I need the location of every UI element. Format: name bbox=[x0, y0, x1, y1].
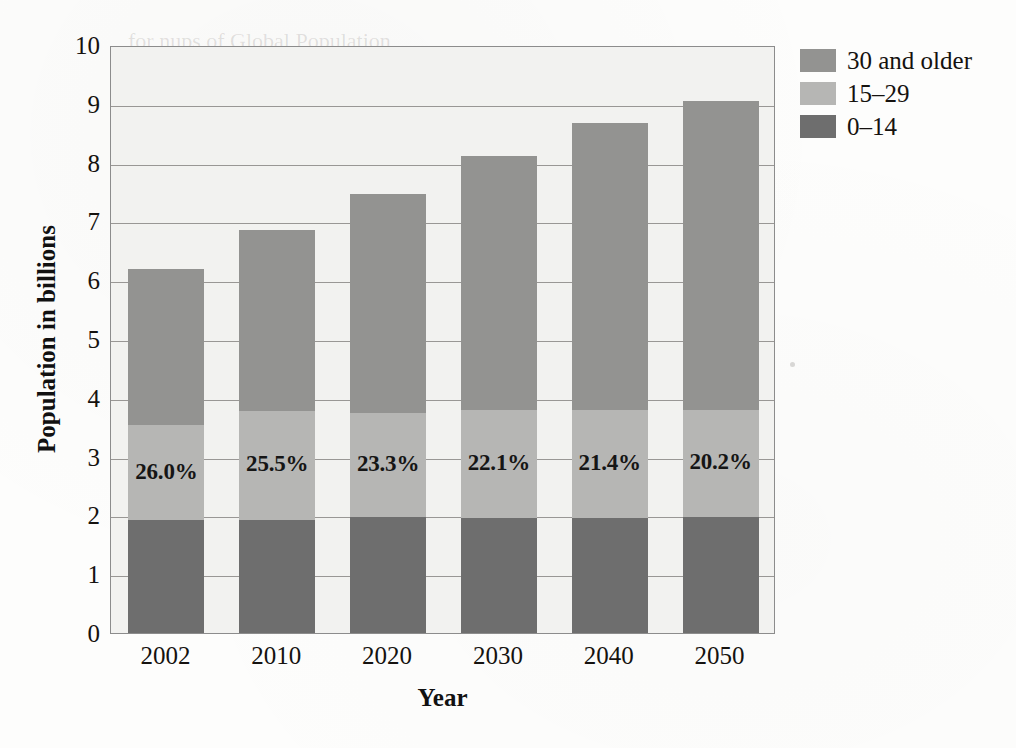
legend-item[interactable]: 0–14 bbox=[800, 110, 1005, 143]
chart-figure: for nups of Global Population Population… bbox=[0, 0, 1016, 748]
x-tick-label-2040: 2040 bbox=[553, 642, 664, 670]
bar-segment[interactable] bbox=[350, 194, 426, 413]
y-tick-label-7: 7 bbox=[58, 209, 100, 234]
bar-segment[interactable] bbox=[350, 517, 426, 633]
x-tick-label-2050: 2050 bbox=[664, 642, 775, 670]
bar-2010[interactable]: 25.5% bbox=[239, 45, 315, 633]
bar-segment[interactable] bbox=[572, 518, 648, 633]
y-axis-title: Population in billions bbox=[33, 189, 61, 489]
bar-segment[interactable] bbox=[683, 101, 759, 410]
legend-label: 15–29 bbox=[847, 80, 910, 108]
x-tick-label-2020: 2020 bbox=[332, 642, 443, 670]
bar-2030[interactable]: 22.1% bbox=[461, 45, 537, 633]
bar-segment[interactable] bbox=[683, 517, 759, 633]
y-tick-label-5: 5 bbox=[58, 327, 100, 352]
y-tick-label-10: 10 bbox=[58, 33, 100, 58]
bar-percentage-label: 22.1% bbox=[461, 450, 537, 476]
legend-item[interactable]: 30 and older bbox=[800, 44, 1005, 77]
bar-segment[interactable] bbox=[128, 269, 204, 425]
bars-layer: 26.0%25.5%23.3%22.1%21.4%20.2% bbox=[111, 47, 774, 633]
bar-percentage-label: 20.2% bbox=[683, 449, 759, 475]
y-tick-label-9: 9 bbox=[58, 92, 100, 117]
y-tick-label-1: 1 bbox=[58, 562, 100, 587]
x-tick-label-2030: 2030 bbox=[443, 642, 554, 670]
page-speck bbox=[790, 362, 795, 367]
bar-percentage-label: 26.0% bbox=[128, 459, 204, 485]
x-axis-title: Year bbox=[110, 684, 775, 712]
y-tick-label-0: 0 bbox=[58, 621, 100, 646]
legend-label: 30 and older bbox=[847, 47, 972, 75]
legend-swatch-icon bbox=[800, 115, 836, 138]
legend-swatch-icon bbox=[800, 82, 836, 105]
y-tick-label-8: 8 bbox=[58, 151, 100, 176]
bar-segment[interactable] bbox=[461, 156, 537, 411]
legend-label: 0–14 bbox=[847, 113, 897, 141]
bar-segment[interactable] bbox=[239, 520, 315, 633]
chart-legend: 30 and older15–290–14 bbox=[800, 44, 1005, 143]
legend-swatch-icon bbox=[800, 49, 836, 72]
plot-area: 26.0%25.5%23.3%22.1%21.4%20.2% bbox=[110, 46, 775, 634]
bar-2002[interactable]: 26.0% bbox=[128, 45, 204, 633]
bar-percentage-label: 23.3% bbox=[350, 451, 426, 477]
x-tick-label-2002: 2002 bbox=[110, 642, 221, 670]
y-tick-label-4: 4 bbox=[58, 386, 100, 411]
y-tick-label-3: 3 bbox=[58, 445, 100, 470]
bar-2050[interactable]: 20.2% bbox=[683, 45, 759, 633]
bar-2020[interactable]: 23.3% bbox=[350, 45, 426, 633]
y-tick-label-6: 6 bbox=[58, 268, 100, 293]
bar-segment[interactable] bbox=[572, 123, 648, 411]
bar-percentage-label: 25.5% bbox=[239, 451, 315, 477]
bar-segment[interactable] bbox=[128, 520, 204, 633]
bar-segment[interactable] bbox=[239, 230, 315, 411]
y-tick-label-2: 2 bbox=[58, 503, 100, 528]
bar-percentage-label: 21.4% bbox=[572, 450, 648, 476]
legend-item[interactable]: 15–29 bbox=[800, 77, 1005, 110]
x-tick-label-2010: 2010 bbox=[221, 642, 332, 670]
bar-2040[interactable]: 21.4% bbox=[572, 45, 648, 633]
bar-segment[interactable] bbox=[461, 518, 537, 633]
